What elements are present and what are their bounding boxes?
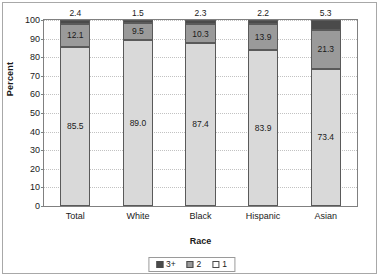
bar-stack: 87.410.32.3 (185, 20, 215, 206)
bar-segment[interactable] (185, 20, 215, 24)
bar-segment-value-label: 83.9 (255, 124, 272, 133)
bars-layer: 85.512.12.4Total89.09.51.5White87.410.32… (44, 20, 357, 206)
bar-segment[interactable]: 73.4 (311, 69, 341, 206)
chart-legend: 3+21 (148, 257, 235, 272)
bar-segment[interactable] (123, 20, 153, 23)
bar-segment[interactable] (311, 20, 341, 30)
y-axis-tick-mark (41, 206, 44, 207)
legend-item[interactable]: 2 (187, 260, 202, 269)
bar-segment[interactable]: 83.9 (248, 50, 278, 206)
bar-segment[interactable]: 87.4 (185, 43, 215, 206)
legend-swatch-icon (156, 261, 163, 268)
bar-segment[interactable]: 12.1 (60, 24, 90, 47)
bar-segment[interactable] (248, 20, 278, 24)
y-axis-tick-label: 10 (30, 182, 40, 192)
y-axis-tick-label: 0 (35, 201, 40, 211)
bar-group[interactable]: 87.410.32.3Black (185, 20, 215, 206)
bar-segment[interactable] (60, 20, 90, 24)
legend-item[interactable]: 1 (212, 260, 227, 269)
x-axis-title: Race (43, 236, 358, 246)
bar-segment-value-label: 9.5 (132, 27, 144, 36)
y-axis-tick-label: 80 (30, 52, 40, 62)
bar-segment-value-label: 73.4 (317, 133, 334, 142)
bar-segment-value-label: 12.1 (67, 31, 84, 40)
bar-stack: 73.421.35.3 (311, 20, 341, 206)
bar-segment-value-label: 10.3 (192, 30, 209, 39)
y-axis-tick-label: 100 (25, 15, 40, 25)
x-axis-tick-label: Asian (289, 211, 363, 221)
legend-label: 3+ (166, 260, 176, 269)
y-axis-tick-label: 70 (30, 71, 40, 81)
legend-swatch-icon (212, 261, 219, 268)
bar-segment[interactable]: 21.3 (311, 30, 341, 70)
bar-segment[interactable]: 10.3 (185, 24, 215, 43)
gridline (44, 206, 357, 207)
y-axis-tick-label: 30 (30, 145, 40, 155)
y-axis-tick-label: 60 (30, 89, 40, 99)
bar-segment[interactable]: 13.9 (248, 24, 278, 50)
plot-area: 0102030405060708090100 85.512.12.4Total8… (43, 19, 358, 207)
y-axis-tick-label: 40 (30, 127, 40, 137)
bar-top-value-label: 2.2 (248, 9, 278, 18)
bar-segment-value-label: 21.3 (317, 45, 334, 54)
bar-stack: 83.913.92.2 (248, 20, 278, 206)
legend-swatch-icon (187, 261, 194, 268)
bar-segment-value-label: 13.9 (255, 33, 272, 42)
bar-group[interactable]: 83.913.92.2Hispanic (248, 20, 278, 206)
bar-group[interactable]: 85.512.12.4Total (60, 20, 90, 206)
bar-stack: 85.512.12.4 (60, 20, 90, 206)
bar-segment-value-label: 85.5 (67, 122, 84, 131)
bar-top-value-label: 2.4 (60, 9, 90, 18)
bar-segment[interactable]: 9.5 (123, 23, 153, 41)
bar-group[interactable]: 73.421.35.3Asian (311, 20, 341, 206)
chart-figure: Percent 0102030405060708090100 85.512.12… (0, 0, 383, 280)
legend-label: 1 (222, 260, 227, 269)
bar-segment-value-label: 89.0 (130, 119, 147, 128)
bar-segment[interactable]: 89.0 (123, 40, 153, 206)
legend-item[interactable]: 3+ (156, 260, 176, 269)
legend-label: 2 (197, 260, 202, 269)
bar-top-value-label: 1.5 (123, 9, 153, 18)
bar-top-value-label: 5.3 (311, 9, 341, 18)
bar-top-value-label: 2.3 (185, 9, 215, 18)
y-axis-tick-label: 20 (30, 164, 40, 174)
y-axis-title: Percent (5, 39, 15, 119)
y-axis-tick-label: 50 (30, 108, 40, 118)
bar-group[interactable]: 89.09.51.5White (123, 20, 153, 206)
bar-segment-value-label: 87.4 (192, 120, 209, 129)
bar-segment[interactable]: 85.5 (60, 47, 90, 206)
y-axis-tick-label: 90 (30, 34, 40, 44)
bar-stack: 89.09.51.5 (123, 20, 153, 206)
